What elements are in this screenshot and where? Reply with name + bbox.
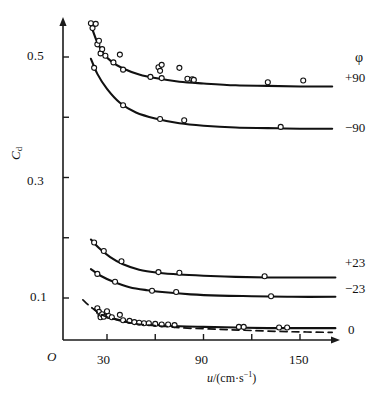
x-axis-title-exponent: −1: [244, 370, 253, 379]
origin-label: O: [47, 349, 57, 365]
data-point: [150, 288, 155, 293]
data-point: [88, 21, 93, 26]
x-tick-label-90: 90: [195, 352, 208, 368]
data-point: [236, 324, 241, 329]
series-+90: [88, 21, 332, 87]
data-point: [177, 65, 182, 70]
data-point: [93, 21, 98, 26]
data-point: [101, 249, 106, 254]
data-point: [96, 38, 101, 43]
data-point: [121, 103, 126, 108]
series-+23: [91, 240, 335, 279]
x-axis-title: u/(cm·s−1): [207, 370, 256, 386]
y-axis-title: Cd: [8, 147, 24, 160]
series-layer: [83, 21, 336, 333]
chart-canvas: [0, 0, 391, 396]
data-point: [159, 62, 164, 67]
series-curve-+23: [91, 240, 335, 278]
series-0-solid: [94, 306, 335, 330]
series-label-minus90: −90: [345, 120, 365, 136]
data-point: [185, 76, 190, 81]
series-label-plus23: +23: [345, 255, 365, 271]
data-point: [191, 77, 196, 82]
data-point: [285, 325, 290, 330]
data-point: [92, 240, 97, 245]
data-point: [92, 65, 97, 70]
x-tick-label-30: 30: [97, 352, 110, 368]
series--23: [91, 269, 335, 299]
data-point: [156, 270, 161, 275]
data-point: [182, 118, 187, 123]
x-axis-title-close: ): [252, 371, 256, 385]
data-point: [100, 47, 105, 52]
x-axis-title-units: /(cm·s: [213, 371, 244, 385]
data-point: [158, 68, 163, 73]
y-tick-label-0.1: 0.1: [30, 289, 47, 305]
y-axis-title-symbol: C: [8, 151, 23, 160]
series-curve-+90: [91, 25, 332, 86]
data-point: [158, 117, 163, 122]
figure-container: 0.5 0.3 0.1 O 30 90 150 u/(cm·s−1) Cd φ …: [0, 0, 391, 396]
data-point: [262, 274, 267, 279]
data-point: [119, 259, 124, 264]
series-label-plus90: +90: [345, 70, 365, 86]
y-tick-label-0.3: 0.3: [27, 173, 44, 189]
legend-header-phi: φ: [355, 50, 363, 66]
series-label-minus23: −23: [345, 281, 365, 297]
x-axis-arrow: [331, 336, 340, 343]
data-point: [111, 60, 116, 65]
data-point: [301, 78, 306, 83]
data-point: [265, 80, 270, 85]
series-curve--23: [91, 269, 335, 297]
data-point: [121, 67, 126, 72]
data-point: [117, 312, 122, 317]
y-tick-label-0.5: 0.5: [27, 48, 44, 64]
x-tick-label-150: 150: [289, 352, 309, 368]
y-axis-title-subscript: d: [14, 147, 24, 152]
data-point: [241, 324, 246, 329]
data-point: [278, 124, 283, 129]
series-label-zero: 0: [348, 322, 355, 338]
data-point: [113, 279, 118, 284]
data-point: [174, 289, 179, 294]
y-axis-arrow: [59, 17, 66, 26]
data-point: [105, 309, 110, 314]
data-point: [177, 270, 182, 275]
data-point: [269, 294, 274, 299]
data-point: [117, 52, 122, 57]
data-point: [103, 53, 108, 58]
data-point: [148, 74, 153, 79]
data-point: [277, 325, 282, 330]
data-point: [95, 271, 100, 276]
data-point: [159, 76, 164, 81]
